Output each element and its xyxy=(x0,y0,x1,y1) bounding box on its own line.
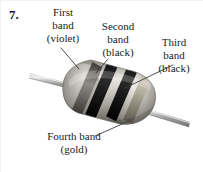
callout-third-band: Third band (black) xyxy=(147,36,201,75)
figure-item-number: 7. xyxy=(9,8,19,21)
callout-fourth-band-line1: Fourth band xyxy=(22,130,126,143)
callout-third-band-line3: (black) xyxy=(147,62,201,75)
callout-second-band-line3: (black) xyxy=(85,46,151,59)
callout-second-band: Second band (black) xyxy=(85,20,151,59)
callout-first-band-line1: First xyxy=(32,6,94,19)
callout-third-band-line2: band xyxy=(147,49,201,62)
callout-third-band-line1: Third xyxy=(147,36,201,49)
callout-second-band-line2: band xyxy=(85,33,151,46)
figure-panel: 7. First band (violet) Second band (blac… xyxy=(0,0,203,172)
leader-line-first xyxy=(61,48,79,69)
callout-fourth-band-line2: (gold) xyxy=(22,143,126,156)
callout-fourth-band: Fourth band (gold) xyxy=(22,130,126,156)
callout-second-band-line1: Second xyxy=(85,20,151,33)
